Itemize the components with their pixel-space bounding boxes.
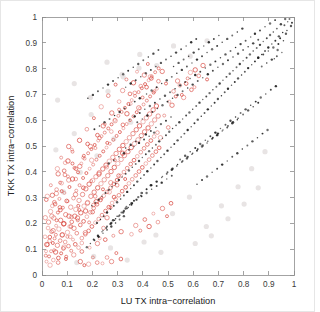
- data-point-black: [216, 134, 218, 136]
- data-point-black: [217, 67, 219, 69]
- data-point-black: [144, 109, 146, 111]
- data-point-black: [178, 121, 180, 123]
- data-point-black: [140, 76, 142, 78]
- data-point-black: [180, 48, 182, 50]
- data-point-black: [280, 23, 282, 25]
- data-point-black: [261, 66, 263, 68]
- data-point-black: [271, 43, 273, 45]
- data-point-black: [157, 108, 159, 110]
- data-point-black: [135, 140, 137, 142]
- data-point-black: [172, 128, 174, 129]
- data-point-black: [160, 123, 162, 125]
- data-point-black: [94, 202, 96, 204]
- data-point-black: [130, 144, 132, 146]
- data-point-faint: [125, 257, 130, 262]
- data-point-black: [193, 51, 195, 53]
- data-point-black: [230, 50, 232, 52]
- data-point-black: [125, 173, 127, 175]
- data-point-black: [190, 41, 192, 43]
- data-point-black: [283, 24, 285, 26]
- data-point-black: [203, 45, 205, 47]
- data-point-black: [102, 232, 104, 234]
- data-point-faint: [193, 241, 198, 246]
- data-point-black: [235, 47, 237, 49]
- data-point-black: [211, 48, 213, 50]
- data-point-black: [288, 18, 290, 20]
- data-point-black: [246, 145, 248, 147]
- data-point-black: [261, 54, 263, 56]
- data-point-black: [196, 183, 198, 185]
- data-point-black: [120, 198, 122, 200]
- data-point-faint: [170, 211, 175, 216]
- data-point-black: [131, 166, 133, 168]
- data-point-black: [116, 215, 118, 217]
- data-point-black: [190, 126, 192, 128]
- data-point-black: [140, 178, 142, 180]
- data-point-black: [106, 229, 108, 231]
- data-point-black: [269, 34, 271, 36]
- data-point-black: [119, 219, 121, 221]
- data-point-faint: [187, 194, 192, 199]
- data-point-black: [207, 108, 209, 110]
- data-point-faint: [154, 63, 159, 68]
- data-point-black: [283, 40, 285, 42]
- data-point-faint: [225, 216, 230, 221]
- data-point-black: [214, 102, 216, 104]
- data-point-black: [201, 55, 203, 57]
- data-point-black: [118, 156, 120, 158]
- data-point-black: [285, 33, 287, 35]
- data-point-black: [150, 167, 152, 169]
- data-point-black: [224, 124, 226, 126]
- data-point-black: [242, 49, 244, 51]
- data-point-black: [118, 179, 120, 181]
- data-point-black: [237, 77, 239, 79]
- data-point-black: [262, 133, 264, 135]
- data-point-black: [229, 120, 231, 122]
- data-point-black: [184, 81, 186, 83]
- data-point-black: [139, 97, 141, 99]
- data-point-black: [126, 191, 128, 193]
- data-point-black: [222, 63, 224, 65]
- data-point-black: [175, 51, 177, 53]
- data-point-black: [256, 47, 258, 49]
- data-point-black: [145, 153, 147, 155]
- data-point-black: [209, 64, 211, 66]
- data-point-black: [189, 151, 191, 153]
- data-point-black: [247, 46, 249, 48]
- data-point-black: [199, 143, 201, 145]
- data-point-black: [145, 133, 147, 135]
- data-point-black: [153, 131, 155, 133]
- data-point-faint: [171, 43, 176, 48]
- data-point-black: [237, 31, 239, 33]
- data-point-black: [161, 83, 163, 85]
- y-tick-label: 0.6: [26, 116, 38, 125]
- data-point-black: [135, 163, 137, 165]
- data-point-black: [237, 52, 239, 54]
- data-point-black: [98, 236, 100, 238]
- data-point-black: [221, 130, 223, 132]
- data-point-black: [207, 141, 209, 143]
- data-point-black: [142, 118, 144, 120]
- data-point-black: [180, 136, 182, 138]
- data-point-black: [276, 55, 278, 57]
- data-point-black: [193, 122, 195, 124]
- data-point-black: [232, 56, 234, 58]
- data-point-black: [151, 111, 153, 113]
- data-point-faint: [55, 97, 60, 102]
- data-point-black: [227, 88, 229, 90]
- data-point-black: [177, 164, 179, 166]
- data-point-black: [267, 46, 269, 48]
- data-point-black: [211, 138, 213, 140]
- y-tick-label: 0.1: [26, 245, 38, 254]
- data-point-black: [132, 67, 134, 69]
- data-point-black: [226, 126, 228, 128]
- data-point-black: [186, 66, 188, 68]
- data-point-black: [215, 86, 217, 88]
- data-point-black: [281, 52, 283, 54]
- data-point-black: [221, 163, 223, 165]
- data-point-black: [286, 30, 288, 32]
- data-point-black: [171, 169, 173, 171]
- data-point-black: [241, 74, 243, 76]
- data-point-black: [257, 102, 259, 104]
- data-point-black: [130, 204, 132, 206]
